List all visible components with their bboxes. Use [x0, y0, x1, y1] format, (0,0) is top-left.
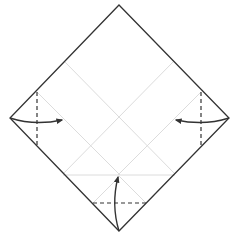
crease-line	[63, 62, 173, 174]
right-corner-arrow-icon	[176, 118, 229, 123]
crease-line	[118, 92, 201, 175]
left-corner-arrow-icon	[10, 118, 62, 123]
bottom-corner-arrow-icon	[115, 177, 119, 231]
crease-line	[37, 92, 120, 175]
crease-line	[65, 62, 175, 174]
crease-lines	[37, 62, 201, 203]
crease-line	[119, 176, 146, 203]
valley-fold-lines	[37, 92, 201, 203]
origami-diagram	[0, 0, 238, 240]
